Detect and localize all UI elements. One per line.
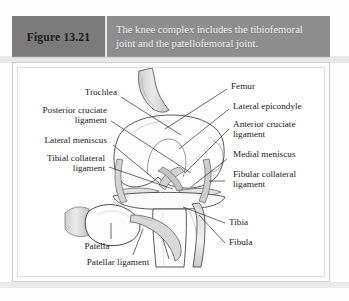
figure-caption-box: The knee complex includes the tibiofemor… xyxy=(107,16,330,57)
figure-page: Figure 13.21 The knee complex includes t… xyxy=(0,0,349,301)
figure-caption-text: The knee complex includes the tibiofemor… xyxy=(116,23,322,51)
scan-band-bottom xyxy=(0,282,349,288)
figure-number-box: Figure 13.21 xyxy=(12,16,107,57)
figure-number-label: Figure 13.21 xyxy=(27,31,91,43)
illustration-panel: Trochlea Posterior cruciate ligament Lat… xyxy=(12,62,330,282)
illustration-panel-inner-border xyxy=(17,67,325,277)
figure-header: Figure 13.21 The knee complex includes t… xyxy=(12,16,330,57)
